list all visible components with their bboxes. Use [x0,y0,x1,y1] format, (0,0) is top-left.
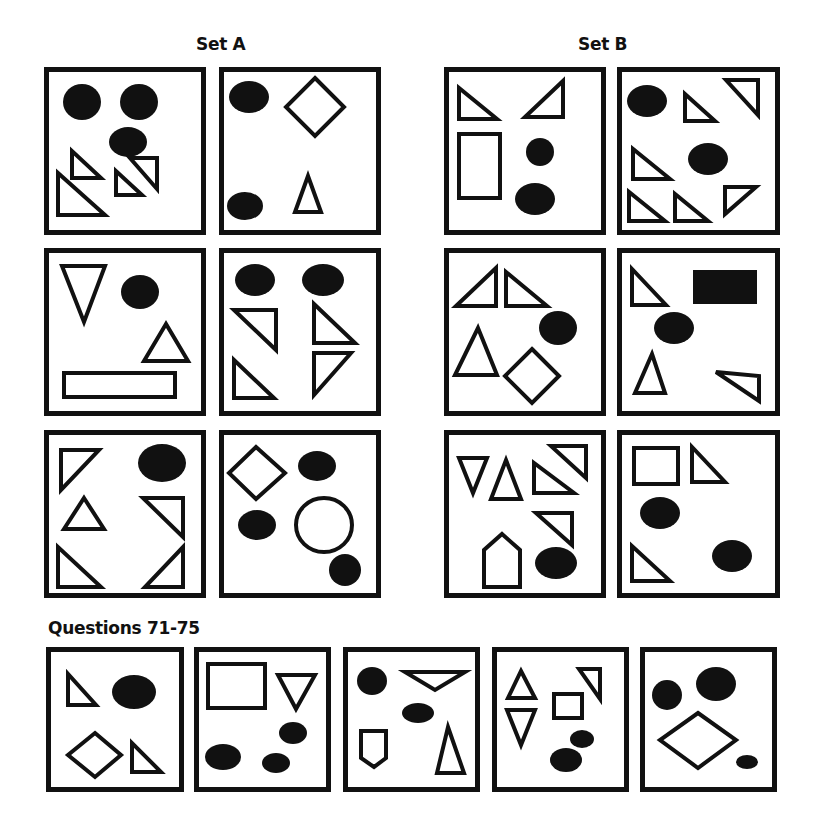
outline-triangle-icon [314,353,351,395]
filled-ellipse-icon [712,540,752,572]
outline-triangle-icon [130,158,157,189]
filled-ellipse-icon [654,312,694,344]
filled-ellipse-icon [736,755,758,769]
outline-triangle-icon [635,354,665,393]
outline-triangle-icon [726,80,758,115]
panel-set-a-4 [219,248,381,416]
outline-diamond-icon [286,78,344,136]
filled-ellipse-icon [120,84,158,120]
panel-set-b-5 [444,430,606,598]
filled-ellipse-icon [109,127,147,157]
filled-ellipse-icon [627,85,667,117]
filled-ellipse-icon [229,81,269,113]
outline-triangle-icon [456,268,496,306]
outline-triangle-icon [716,372,759,401]
filled-ellipse-icon [688,143,728,175]
filled-ellipse-icon [402,703,434,723]
filled-ellipse-icon [515,183,555,215]
outline-diamond-icon [229,447,285,499]
outline-triangle-icon [685,94,715,121]
outline-triangle-icon [525,81,563,117]
outline-pentagon-icon [361,731,386,767]
outline-pentagon-icon [484,534,520,587]
filled-ellipse-icon [535,547,577,579]
outline-triangle-icon [405,672,465,690]
filled-ellipse-icon [298,451,336,481]
filled-ellipse-icon [696,667,736,701]
filled-ellipse-icon [235,264,275,296]
filled-ellipse-icon [227,192,263,220]
outline-triangle-icon [295,176,321,212]
filled-ellipse-icon [205,744,241,770]
filled-ellipse-icon [570,730,594,748]
panel-question-72 [194,647,331,792]
outline-triangle-icon [72,151,101,178]
outline-triangle-icon [437,727,464,773]
outline-triangle-icon [551,446,586,478]
filled-ellipse-icon [302,264,344,296]
outline-triangle-icon [459,458,487,493]
outline-triangle-icon [629,192,665,221]
outline-triangle-icon [234,310,276,350]
filled-ellipse-icon [63,84,101,120]
outline-triangle-icon [314,304,355,343]
panel-set-a-3 [44,248,206,416]
outline-triangle-icon [68,674,96,705]
outline-triangle-icon [508,671,535,698]
outline-triangle-icon [675,194,708,221]
filled-ellipse-icon [640,497,680,529]
outline-triangle-icon [507,710,535,745]
outline-triangle-icon [132,743,161,772]
set-b-heading: Set B [578,34,627,54]
filled-ellipse-icon [112,675,156,709]
outline-triangle-icon [144,324,188,361]
filled-ellipse-icon [329,554,361,586]
panel-set-a-5 [44,430,206,598]
outline-triangle-icon [64,498,104,529]
panel-question-73 [343,647,480,792]
outline-triangle-icon [62,266,105,322]
filled-ellipse-icon [652,680,682,710]
outline-rectangle-icon [208,664,265,708]
outline-triangle-icon [725,187,756,214]
outline-triangle-icon [692,447,725,482]
filled-ellipse-icon [238,510,276,540]
outline-triangle-icon [506,272,547,306]
panel-set-a-6 [219,430,381,598]
outline-rectangle-icon [554,694,582,718]
outline-triangle-icon [632,546,670,581]
outline-rectangle-icon [634,448,678,484]
panel-question-74 [492,647,629,792]
panel-set-b-2 [617,67,780,235]
outline-triangle-icon [145,547,183,587]
outline-diamond-icon [68,733,121,777]
set-a-heading: Set A [196,34,245,54]
filled-ellipse-icon [138,444,186,482]
panel-question-71 [46,647,184,792]
outline-diamond-icon [505,349,559,403]
outline-rectangle-icon [64,373,175,397]
outline-triangle-icon [278,675,315,709]
filled-ellipse-icon [539,311,577,345]
outline-triangle-icon [632,269,666,305]
panel-set-b-3 [444,248,606,416]
filled-ellipse-icon [279,722,307,744]
outline-triangle-icon [116,171,142,195]
outline-triangle-icon [534,463,574,493]
outline-diamond-icon [660,713,736,768]
outline-circle-icon [296,498,352,552]
panel-set-b-6 [617,430,780,598]
outline-triangle-icon [455,328,497,375]
filled-ellipse-icon [357,667,387,695]
outline-triangle-icon [234,360,274,398]
outline-triangle-icon [633,149,670,179]
panel-set-a-1 [44,67,206,235]
panel-question-75 [640,647,777,792]
panel-set-b-1 [444,67,606,235]
outline-triangle-icon [459,88,497,119]
filled-ellipse-icon [550,748,582,772]
outline-triangle-icon [491,460,521,499]
outline-triangle-icon [58,547,101,587]
outline-triangle-icon [143,498,183,537]
filled-ellipse-icon [121,275,159,309]
